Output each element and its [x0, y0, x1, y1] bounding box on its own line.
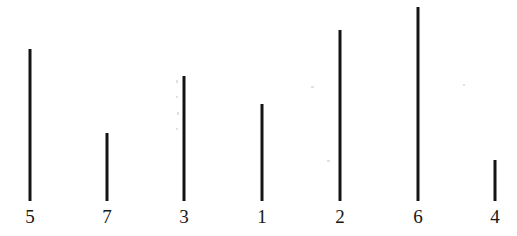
bar-label-5: 5: [25, 207, 35, 226]
scan-speck: [176, 96, 178, 98]
bar-label-1: 1: [257, 207, 267, 226]
line-length-figure: 5731264: [0, 0, 517, 236]
bar-label-4: 4: [490, 207, 500, 226]
bar-line-1: [261, 104, 264, 201]
bar-line-4: [494, 160, 497, 201]
scan-speck: [311, 86, 314, 88]
scan-speck: [176, 80, 178, 83]
bar-line-7: [106, 133, 109, 201]
scan-speck: [463, 84, 465, 86]
bar-label-6: 6: [413, 207, 423, 226]
scan-speck: [177, 112, 179, 115]
bar-label-2: 2: [335, 207, 345, 226]
scan-speck: [176, 128, 178, 130]
plot-area: 5731264: [0, 0, 517, 236]
bar-line-6: [417, 7, 420, 201]
bar-line-3: [183, 76, 186, 201]
bar-label-3: 3: [179, 207, 189, 226]
scan-speck: [327, 160, 330, 162]
bar-line-5: [29, 49, 32, 201]
bar-line-2: [339, 30, 342, 201]
bar-label-7: 7: [102, 207, 112, 226]
